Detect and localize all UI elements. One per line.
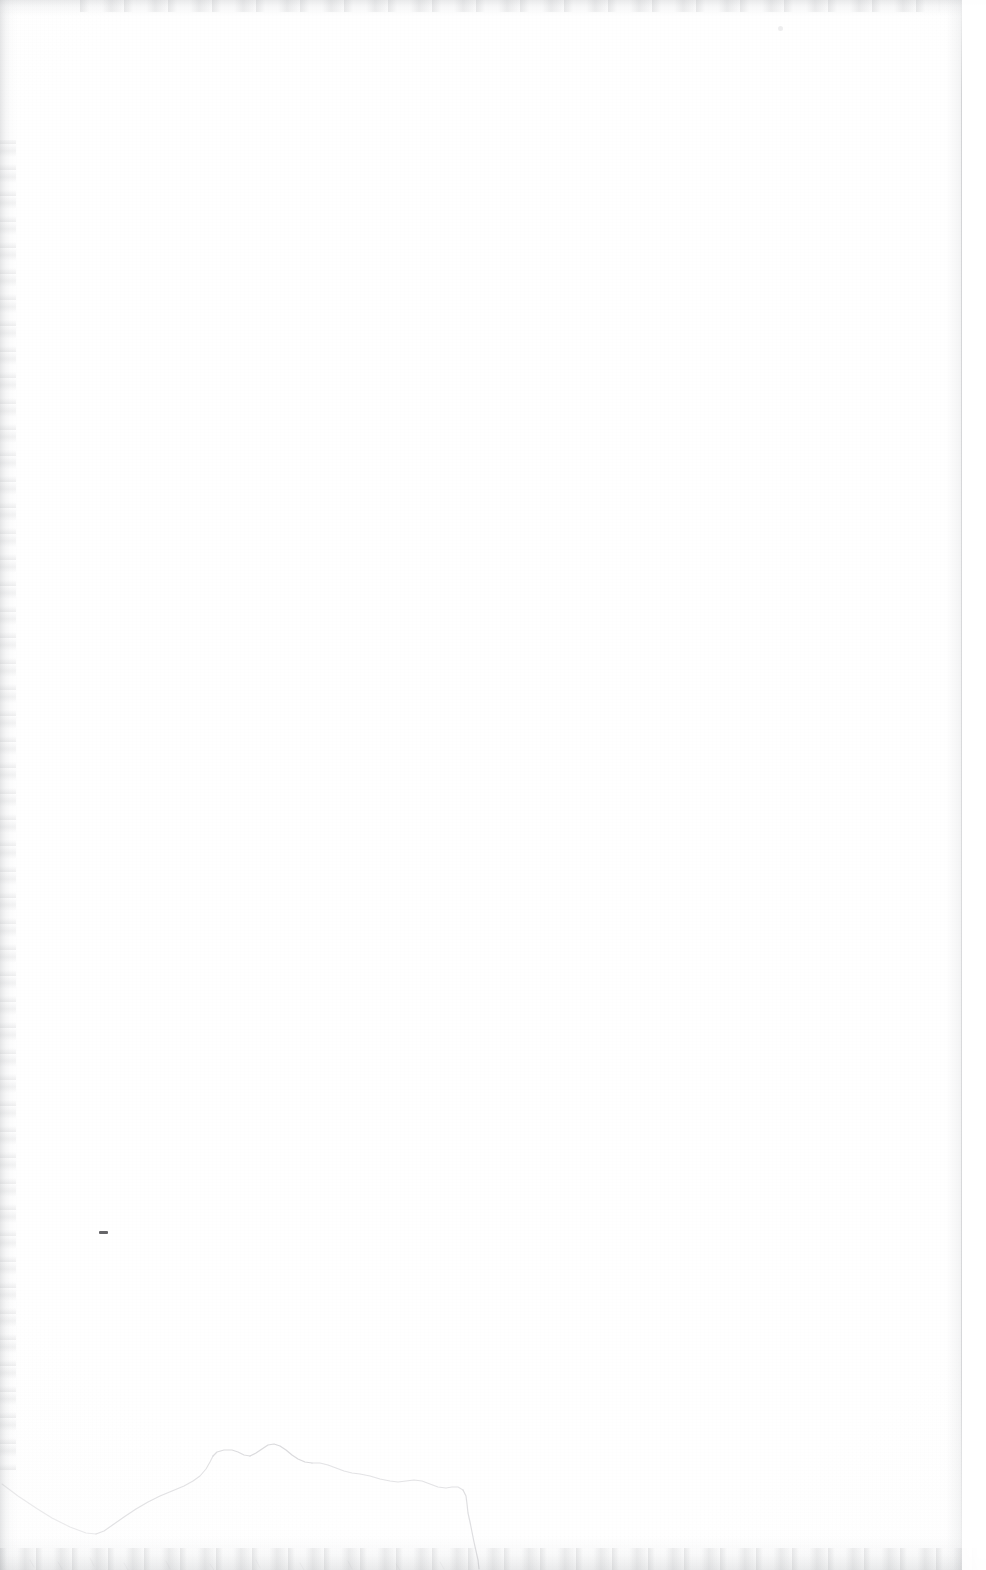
- paper-surface: [0, 0, 986, 1570]
- scanned-page: [0, 0, 986, 1570]
